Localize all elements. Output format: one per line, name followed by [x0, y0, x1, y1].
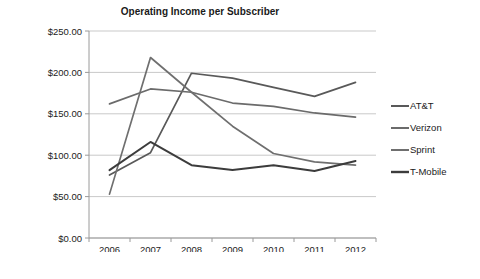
gridlines-group [89, 31, 376, 238]
x-axis-tick-labels: 2006200720082009201020112012 [99, 244, 366, 252]
y-axis-tick-label: $250.00 [48, 26, 82, 37]
y-axis-tick-label: $100.00 [48, 150, 82, 161]
y-axis-tick-label: $150.00 [48, 108, 82, 119]
legend-label-sprint: Sprint [410, 144, 435, 155]
axes-group [85, 31, 376, 242]
line-chart-plot: $0.00$50.00$100.00$150.00$200.00$250.00 … [0, 0, 480, 252]
series-line-t-mobile [110, 142, 356, 171]
x-axis-tick-label: 2011 [304, 244, 324, 252]
caption-divider [0, 252, 480, 253]
y-axis-tick-label: $0.00 [58, 233, 82, 244]
x-axis-tick-label: 2012 [345, 244, 366, 252]
x-axis-tick-label: 2009 [222, 244, 243, 252]
x-axis-tick-label: 2006 [99, 244, 120, 252]
x-axis-tick-label: 2008 [181, 244, 202, 252]
legend-label-t-mobile: T-Mobile [410, 166, 446, 177]
x-axis-tick-label: 2007 [140, 244, 161, 252]
x-axis-tick-label: 2010 [263, 244, 284, 252]
legend-label-verizon: Verizon [410, 122, 442, 133]
data-series-group [110, 58, 356, 195]
y-axis-tick-labels: $0.00$50.00$100.00$150.00$200.00$250.00 [48, 26, 82, 244]
y-axis-tick-label: $200.00 [48, 67, 82, 78]
series-line-at-t [110, 73, 356, 175]
chart-legend: AT&TVerizonSprintT-Mobile [391, 100, 446, 177]
legend-label-at-t: AT&T [410, 100, 434, 111]
exhibit-caption-bar: EXHIBIT 7 Operating Income per Subscribe… [0, 255, 480, 279]
chart-figure: Operating Income per Subscriber $0.00$50… [0, 0, 480, 252]
y-axis-tick-label: $50.00 [53, 191, 82, 202]
series-line-verizon [110, 89, 356, 117]
